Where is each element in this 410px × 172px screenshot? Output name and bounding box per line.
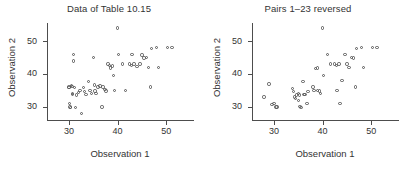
data-point (80, 112, 83, 115)
data-point (149, 85, 152, 88)
scatter-plot-figure: Data of Table 10.15 Observation 1 Observ… (0, 0, 410, 172)
data-point (316, 66, 319, 69)
panel-right-plot-area (252, 23, 398, 120)
data-point (90, 92, 93, 95)
data-point (340, 79, 343, 82)
x-tick-30 (69, 121, 70, 125)
data-point (321, 26, 324, 29)
data-point (138, 62, 141, 65)
data-point (93, 83, 96, 86)
panel-right-x-axis-title: Observation 1 (239, 148, 410, 159)
panel-right-title: Pairs 1–23 reversed (213, 3, 403, 14)
data-point (352, 56, 355, 59)
data-point (347, 66, 350, 69)
data-point (375, 46, 378, 49)
data-point (343, 53, 346, 56)
data-point (147, 66, 150, 69)
data-point (74, 106, 77, 109)
data-point (305, 102, 308, 105)
data-point (303, 93, 306, 96)
data-point (360, 46, 363, 49)
data-point (301, 80, 304, 83)
x-tick-label-40: 40 (311, 127, 335, 136)
data-point (104, 89, 107, 92)
y-tick-40 (248, 74, 252, 75)
data-point (371, 46, 374, 49)
x-tick-50 (166, 121, 167, 125)
data-point (322, 74, 325, 77)
data-point (72, 59, 75, 62)
x-tick-40 (118, 121, 119, 125)
data-point (124, 89, 127, 92)
y-tick-label-30: 30 (216, 102, 242, 111)
data-point (329, 62, 332, 65)
data-point (298, 93, 301, 96)
x-tick-40 (323, 121, 324, 125)
data-point (335, 89, 338, 92)
panel-left-x-axis-title: Observation 1 (34, 148, 206, 159)
y-tick-label-30: 30 (11, 102, 37, 111)
data-point (319, 92, 322, 95)
y-tick-label-40: 40 (216, 69, 242, 78)
y-tick-label-40: 40 (11, 69, 37, 78)
panel-right: Pairs 1–23 reversed Observation 1 Observ… (205, 0, 410, 172)
data-point (113, 89, 116, 92)
data-point (326, 53, 329, 56)
y-tick-30 (248, 107, 252, 108)
data-point (275, 105, 278, 108)
y-tick-50 (248, 41, 252, 42)
data-point (312, 89, 315, 92)
data-point (87, 80, 90, 83)
data-point (267, 82, 270, 85)
data-point (354, 85, 357, 88)
data-point (73, 86, 76, 89)
data-point (72, 53, 75, 56)
x-tick-label-40: 40 (106, 127, 130, 136)
x-tick-label-30: 30 (57, 127, 81, 136)
data-point (166, 46, 169, 49)
data-point (157, 66, 160, 69)
data-point (297, 99, 300, 102)
data-point (111, 64, 114, 67)
panel-left-plot-area (47, 23, 193, 120)
x-tick-label-50: 50 (359, 127, 383, 136)
data-point (84, 93, 87, 96)
data-point (116, 26, 119, 29)
data-point (94, 92, 97, 95)
data-point (306, 90, 309, 93)
data-point (150, 47, 153, 50)
data-point (82, 86, 85, 89)
data-point (355, 47, 358, 50)
x-tick-label-50: 50 (154, 127, 178, 136)
y-tick-label-50: 50 (11, 37, 37, 46)
x-tick-50 (371, 121, 372, 125)
y-tick-30 (43, 107, 47, 108)
data-point (78, 89, 81, 92)
data-point (130, 53, 133, 56)
y-tick-50 (43, 41, 47, 42)
data-point (337, 62, 340, 65)
data-point (117, 53, 120, 56)
data-point (100, 105, 103, 108)
data-point (170, 46, 173, 49)
data-point (362, 66, 365, 69)
panel-left: Data of Table 10.15 Observation 1 Observ… (0, 0, 205, 172)
data-point (112, 74, 115, 77)
x-tick-label-30: 30 (262, 127, 286, 136)
y-tick-label-50: 50 (216, 37, 242, 46)
data-point (145, 56, 148, 59)
data-point (262, 95, 265, 98)
y-tick-40 (43, 74, 47, 75)
data-point (155, 46, 158, 49)
panel-left-title: Data of Table 10.15 (14, 3, 204, 14)
x-tick-30 (274, 121, 275, 125)
data-point (338, 102, 341, 105)
data-point (92, 56, 95, 59)
data-point (69, 106, 72, 109)
data-point (121, 62, 124, 65)
data-point (299, 106, 302, 109)
